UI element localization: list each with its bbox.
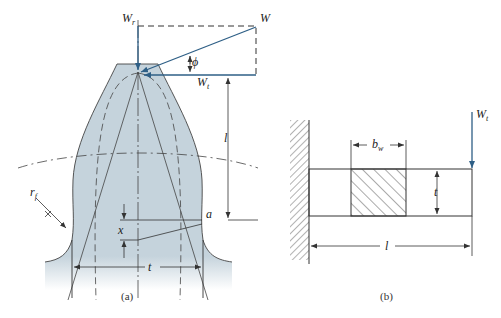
label-wt: Wt xyxy=(197,75,210,91)
caption-b: (b) xyxy=(380,290,393,303)
label-wr: Wr xyxy=(122,11,136,27)
label-a: a xyxy=(206,207,212,221)
caption-a: (a) xyxy=(121,290,134,303)
fixed-wall xyxy=(290,120,309,260)
label-l-b: l xyxy=(385,239,389,253)
label-x: x xyxy=(117,223,124,237)
figure-b-cantilever-beam: Wt bw t l (b) xyxy=(290,107,489,303)
diagram-canvas: Wr W ϕ Wt l rf a x t (a) Wt bw xyxy=(0,0,501,318)
label-wt-b: Wt xyxy=(476,107,489,123)
beam-cross-section xyxy=(351,169,406,216)
label-phi: ϕ xyxy=(192,55,198,69)
label-bw: bw xyxy=(372,137,384,153)
figure-a-gear-tooth: Wr W ϕ Wt l rf a x t (a) xyxy=(18,11,271,303)
label-rf: rf xyxy=(30,185,39,201)
label-w: W xyxy=(260,11,271,25)
force-w-arrow xyxy=(141,27,256,72)
label-l: l xyxy=(224,131,228,145)
